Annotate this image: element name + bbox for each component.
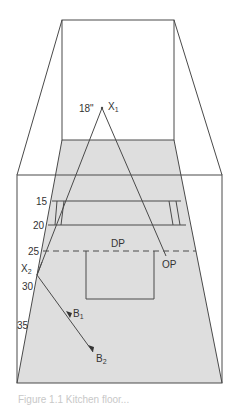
label-dp: DP (111, 238, 125, 249)
label-dist-20: 20 (33, 220, 45, 231)
label-dist-15: 15 (36, 196, 48, 207)
figure-caption: Figure 1.1 Kitchen floor... (18, 394, 129, 405)
label-x2: X2 (21, 263, 32, 275)
label-x1: X1 (108, 101, 119, 113)
label-dist-30: 30 (22, 281, 34, 292)
x1-point (101, 107, 103, 109)
label-dist-35: 35 (17, 320, 29, 331)
ceiling-right-edge (174, 20, 222, 175)
floor-area (17, 140, 222, 383)
ceiling-left-edge (17, 20, 62, 175)
back-wall (62, 20, 174, 140)
label-18-inches: 18" (79, 103, 94, 114)
label-op: OP (162, 259, 177, 270)
label-dist-25: 25 (28, 246, 40, 257)
